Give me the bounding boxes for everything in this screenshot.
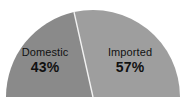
half-pie-chart: Domestic 43% Imported 57%	[0, 0, 187, 108]
slice-label-domestic-percent: 43%	[8, 60, 82, 75]
slice-label-domestic: Domestic 43%	[8, 47, 82, 74]
slice-label-imported-name: Imported	[92, 47, 168, 59]
slice-label-domestic-name: Domestic	[8, 47, 82, 59]
slice-label-imported-percent: 57%	[92, 60, 168, 75]
slice-label-imported: Imported 57%	[92, 47, 168, 74]
